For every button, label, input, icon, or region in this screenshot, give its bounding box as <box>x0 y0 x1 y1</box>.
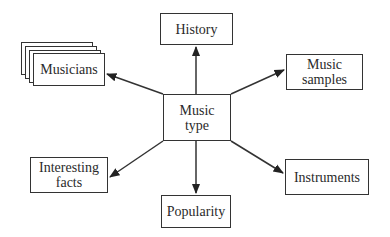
node-label-line1: Music <box>180 103 215 118</box>
node-music-samples: Music samples <box>286 54 363 90</box>
node-label: Instruments <box>294 170 360 185</box>
node-label: Musicians <box>40 62 98 77</box>
node-label-line1: Interesting <box>39 160 99 175</box>
node-music-type: Music type <box>163 94 231 141</box>
node-label: Popularity <box>167 204 225 219</box>
node-history: History <box>160 13 233 45</box>
edge-to-instruments <box>231 141 283 173</box>
node-label: History <box>176 22 218 37</box>
edge-to-musicians <box>107 74 163 94</box>
edge-to-interesting-facts <box>110 141 163 177</box>
node-popularity: Popularity <box>161 195 231 228</box>
node-label-line1: Music <box>302 57 347 72</box>
node-label-line2: type <box>180 118 215 133</box>
node-interesting-facts: Interesting facts <box>30 157 108 193</box>
edge-to-music-samples <box>231 70 284 94</box>
node-instruments: Instruments <box>285 159 369 195</box>
node-label-line2: facts <box>39 175 99 190</box>
node-musicians: Musicians <box>33 53 105 86</box>
node-label-line2: samples <box>302 72 347 87</box>
